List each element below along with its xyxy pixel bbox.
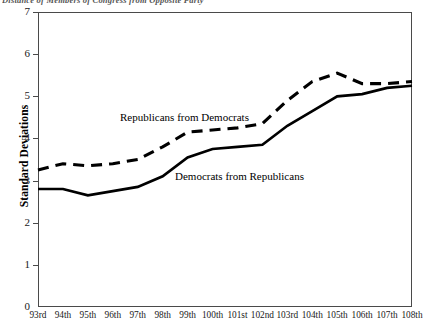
series-label-republicans: Republicans from Democrats (120, 111, 249, 123)
series-label-democrats: Democrats from Republicans (175, 170, 304, 182)
series-lines (0, 0, 425, 327)
figure-container: Distance of Members of Congress from Opp… (0, 0, 425, 327)
